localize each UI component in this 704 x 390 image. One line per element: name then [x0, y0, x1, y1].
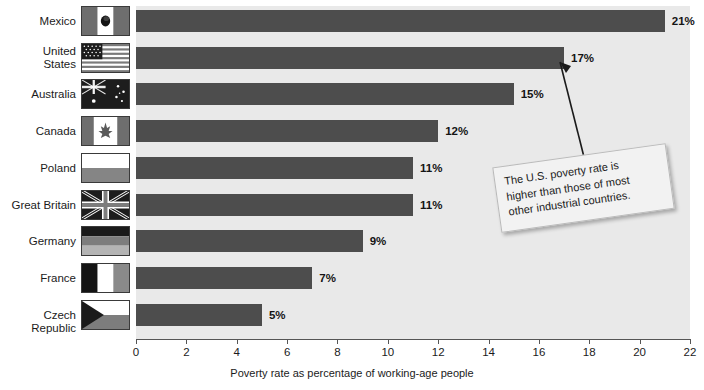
flag-germany-icon [81, 226, 130, 256]
x-axis-tick [237, 339, 238, 344]
poverty-rate-bar-chart: 21%17%15%12%11%11%9%7%5% MexicoUnitedSta… [0, 0, 704, 390]
x-axis-line [136, 339, 690, 340]
bar [136, 230, 363, 252]
bar-value-label: 17% [571, 52, 594, 64]
flag-mexico-icon [81, 6, 130, 36]
bar-value-label: 5% [269, 309, 286, 321]
x-axis-tick [690, 339, 691, 344]
category-label: Germany [0, 235, 76, 248]
x-axis-tick [640, 339, 641, 344]
bar-value-label: 7% [319, 272, 336, 284]
bar [136, 267, 312, 289]
x-axis-tick-label: 6 [284, 346, 290, 358]
category-label: UnitedStates [0, 45, 76, 71]
bar [136, 194, 413, 216]
x-axis-tick-label: 12 [432, 346, 445, 358]
flag-czech-republic-icon [81, 300, 130, 330]
bar-value-label: 21% [672, 15, 695, 27]
flag-canada-icon [81, 116, 130, 146]
x-axis-tick [589, 339, 590, 344]
flag-australia-icon [81, 79, 130, 109]
bar [136, 304, 262, 326]
bar [136, 10, 665, 32]
x-axis-tick-label: 16 [533, 346, 546, 358]
x-axis-tick [287, 339, 288, 344]
bar [136, 47, 564, 69]
flag-united-states-icon [81, 43, 130, 73]
bar-value-label: 15% [521, 88, 544, 100]
bar-value-label: 11% [420, 199, 442, 211]
x-axis-tick [438, 339, 439, 344]
bar [136, 120, 438, 142]
flag-poland-icon [81, 153, 130, 183]
x-axis-tick [136, 339, 137, 344]
x-axis-tick [337, 339, 338, 344]
category-label: Australia [0, 88, 76, 101]
x-axis-tick [186, 339, 187, 344]
x-axis-tick [388, 339, 389, 344]
category-label: France [0, 272, 76, 285]
x-axis-tick-label: 18 [583, 346, 596, 358]
x-axis-tick-label: 14 [482, 346, 495, 358]
x-axis-tick [539, 339, 540, 344]
bar-value-label: 9% [370, 235, 387, 247]
x-axis-tick-label: 20 [633, 346, 646, 358]
x-axis-tick-label: 10 [381, 346, 394, 358]
category-label: Great Britain [0, 199, 76, 212]
category-label: Canada [0, 125, 76, 138]
category-label: Poland [0, 162, 76, 175]
flag-great-britain-icon [81, 190, 130, 220]
x-axis-tick-label: 22 [684, 346, 697, 358]
x-axis-tick-label: 0 [133, 346, 139, 358]
bar-value-label: 12% [445, 125, 468, 137]
flag-france-icon [81, 263, 130, 293]
x-axis-tick-label: 4 [234, 346, 240, 358]
x-axis-tick-label: 2 [183, 346, 189, 358]
bar [136, 83, 514, 105]
bar [136, 157, 413, 179]
category-label: Czech Republic [0, 309, 76, 335]
x-axis-tick-label: 8 [334, 346, 340, 358]
category-label: Mexico [0, 15, 76, 28]
bar-value-label: 11% [420, 162, 442, 174]
x-axis-tick [489, 339, 490, 344]
x-axis-title: Poverty rate as percentage of working-ag… [0, 367, 704, 379]
